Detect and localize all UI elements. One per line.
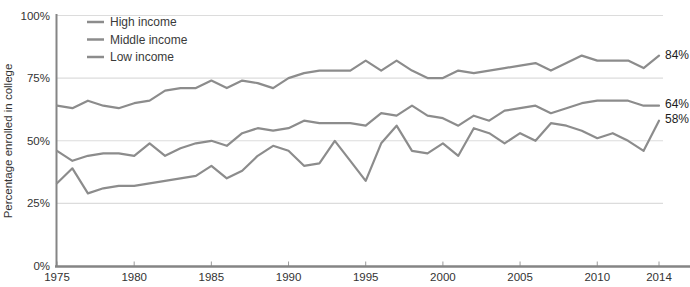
legend: High income Middle income Low income [87, 15, 188, 64]
x-tick-label-1995: 1995 [353, 271, 379, 283]
series-line-low-income [57, 121, 659, 194]
legend-item-high-income: High income [87, 15, 177, 29]
legend-label-middle-income: Middle income [110, 33, 188, 47]
end-label-middle-income: 64% [665, 97, 689, 111]
x-tick-label-1985: 1985 [199, 271, 225, 283]
x-tick-label-1975: 1975 [44, 271, 70, 283]
x-tick-label-1980: 1980 [121, 271, 147, 283]
y-tick-label-100%: 100% [21, 10, 50, 22]
end-label-high-income: 84% [665, 48, 689, 62]
series-line-middle-income [57, 101, 659, 161]
legend-item-middle-income: Middle income [87, 33, 188, 47]
x-tick-label-2014: 2014 [646, 271, 672, 283]
y-axis-tick-labels: 0%25%50%75%100% [21, 10, 50, 273]
y-tick-label-25%: 25% [27, 197, 50, 209]
series-lines [57, 56, 659, 194]
college-enrollment-line-chart: 0%25%50%75%100% 197519801985199019952000… [0, 0, 690, 287]
end-label-low-income: 58% [665, 112, 689, 126]
legend-label-low-income: Low income [110, 50, 174, 64]
y-tick-label-75%: 75% [27, 72, 50, 84]
x-tick-label-2005: 2005 [507, 271, 533, 283]
legend-item-low-income: Low income [87, 50, 174, 64]
y-axis-title: Percentage enrolled in college [2, 64, 14, 219]
legend-label-high-income: High income [110, 15, 177, 29]
x-axis-tick-labels: 197519801985199019952000200520102014 [44, 271, 672, 283]
x-tick-label-2010: 2010 [584, 271, 610, 283]
x-tick-label-1990: 1990 [276, 271, 302, 283]
x-tick-label-2000: 2000 [430, 271, 456, 283]
y-tick-label-50%: 50% [27, 135, 50, 147]
chart-canvas: 0%25%50%75%100% 197519801985199019952000… [0, 0, 690, 287]
